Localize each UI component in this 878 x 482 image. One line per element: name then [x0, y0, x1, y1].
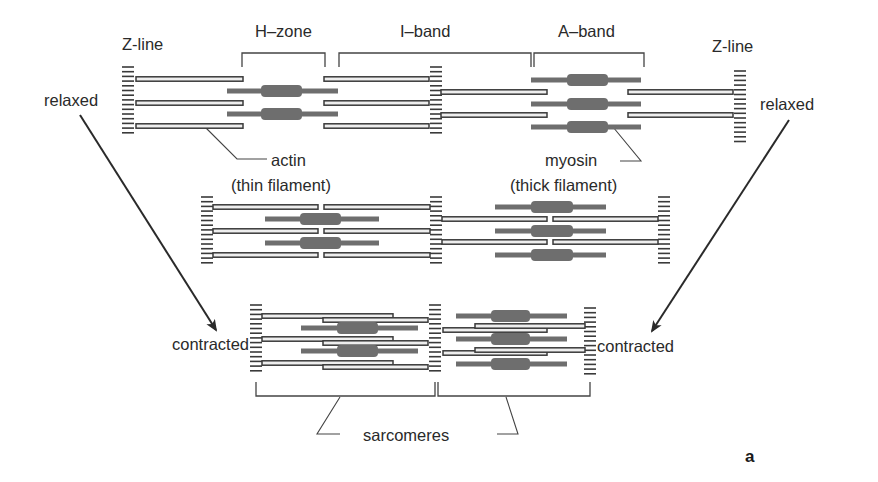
- myosin-filament: [456, 310, 567, 322]
- myosin-filament: [265, 213, 379, 225]
- sarcomeres-label: sarcomeres: [363, 427, 449, 444]
- z-line: [430, 67, 442, 133]
- z-line: [430, 197, 442, 263]
- sarcomere-row-contracted: [250, 305, 596, 374]
- actin-label: actin: [271, 152, 306, 169]
- z-line: [429, 305, 441, 371]
- actin-filament: [324, 253, 430, 257]
- myosin-filament: [456, 358, 567, 370]
- actin-filament: [323, 318, 428, 322]
- actin-filament: [323, 365, 428, 369]
- myosin-filament: [265, 237, 379, 249]
- actin-filament: [136, 101, 243, 105]
- actin-filament: [553, 240, 658, 244]
- actin-filament: [324, 229, 430, 233]
- leader-lines: [205, 127, 641, 434]
- z-line-label-left: Z-line: [122, 36, 163, 53]
- actin-filament: [324, 124, 429, 128]
- relaxed-label-left: relaxed: [44, 92, 98, 109]
- bracket-i-band: [339, 53, 531, 67]
- actin-filament: [136, 124, 243, 128]
- a-band-label: A–band: [558, 23, 615, 40]
- myosin-filament: [495, 249, 606, 261]
- sarcomere-row-relaxed: [122, 67, 746, 142]
- actin-filament: [136, 77, 243, 81]
- actin-filament: [628, 90, 733, 94]
- myosin-filament: [495, 225, 606, 237]
- myosin-filament: [531, 74, 641, 86]
- myosin-leader: [613, 127, 641, 161]
- actin-filament: [324, 205, 430, 209]
- contracted-label-left: contracted: [172, 336, 249, 353]
- arrows: [80, 115, 789, 331]
- myosin-filament: [531, 121, 641, 133]
- z-line: [658, 197, 670, 263]
- diagram-canvas: [0, 0, 878, 482]
- myosin-filament: [531, 98, 641, 110]
- sarcomere-leader-left: [317, 397, 340, 434]
- bracket-sarcomere-1: [256, 382, 435, 396]
- contracted-label-right: contracted: [597, 338, 674, 355]
- actin-filament: [475, 324, 585, 328]
- myosin-filament: [495, 201, 606, 213]
- actin-filament: [442, 240, 547, 244]
- myosin-filament: [301, 345, 418, 357]
- actin-filament: [213, 253, 318, 257]
- myosin-filament: [301, 322, 418, 334]
- z-line: [734, 71, 746, 142]
- sarcomere-leader-right: [497, 397, 518, 434]
- z-line: [584, 308, 596, 374]
- actin-filament: [213, 205, 318, 209]
- actin-filament: [553, 217, 658, 221]
- actin-sublabel: (thin filament): [231, 177, 331, 194]
- actin-leader: [205, 127, 267, 159]
- actin-filament: [441, 113, 547, 117]
- actin-filament: [442, 217, 547, 221]
- actin-filament: [441, 90, 547, 94]
- z-line: [250, 305, 262, 371]
- bracket-a-band: [534, 53, 644, 67]
- relaxed-label-right: relaxed: [760, 96, 814, 113]
- arrow-left-icon: [80, 115, 216, 330]
- z-line: [122, 67, 134, 133]
- myosin-label: myosin: [545, 152, 597, 169]
- i-band-label: I–band: [400, 23, 450, 40]
- actin-filament: [324, 77, 429, 81]
- bracket-h-zone: [242, 53, 325, 67]
- z-line-label-right: Z-line: [712, 38, 753, 55]
- sarcomere-diagram: Z-line H–zone I–band A–band Z-line relax…: [0, 0, 878, 482]
- actin-filament: [324, 101, 429, 105]
- myosin-filament: [227, 108, 338, 120]
- z-line: [201, 197, 213, 263]
- myosin-sublabel: (thick filament): [510, 177, 617, 194]
- sarcomere-row-intermediate: [201, 197, 670, 263]
- bracket-sarcomere-2: [438, 382, 590, 396]
- actin-filament: [475, 348, 585, 352]
- h-zone-label: H–zone: [255, 23, 312, 40]
- myosin-filament: [227, 85, 338, 97]
- actin-filament: [628, 113, 733, 117]
- actin-filament: [323, 341, 428, 345]
- myosin-filament: [456, 333, 567, 345]
- panel-label: a: [745, 448, 754, 465]
- actin-filament: [213, 229, 318, 233]
- arrow-right-icon: [652, 120, 789, 331]
